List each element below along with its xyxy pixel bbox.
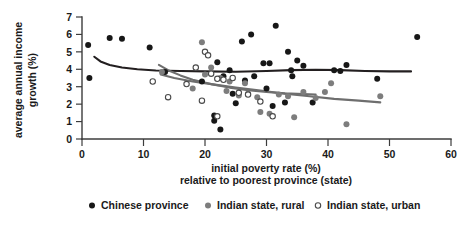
chart-legend: Chinese provinceIndian state, ruralIndia… — [89, 199, 420, 211]
data-point — [270, 103, 276, 109]
data-point — [159, 69, 165, 75]
data-point — [300, 63, 306, 69]
data-point — [273, 23, 279, 29]
scatter-plot-figure: average annual income growth (%) 0123456… — [0, 0, 463, 225]
data-point — [199, 98, 204, 103]
legend-marker-icon — [89, 203, 95, 209]
data-point — [322, 89, 328, 95]
data-point — [184, 81, 189, 86]
data-point — [217, 126, 223, 132]
data-point — [282, 99, 288, 105]
data-point — [215, 114, 220, 119]
data-point — [331, 67, 337, 73]
data-point — [267, 60, 273, 66]
data-point — [291, 114, 297, 120]
trend-line — [94, 57, 411, 72]
y-axis-title: average annual income growth (%) — [12, 22, 38, 138]
y-tick-label: 6 — [66, 28, 72, 40]
legend-label: Chinese province — [101, 199, 189, 211]
y-axis-title-line2: growth (%) — [26, 53, 38, 107]
data-point — [150, 79, 155, 84]
legend-label: Indian state, urban — [327, 199, 420, 211]
data-point — [86, 75, 92, 81]
y-tick-label: 7 — [66, 11, 72, 23]
y-axis-title-line1: average annual income — [12, 22, 24, 138]
data-point — [251, 73, 257, 79]
data-point — [300, 89, 306, 95]
data-point — [230, 75, 235, 80]
data-point — [328, 80, 334, 86]
trend-lines-layer — [94, 57, 411, 103]
data-point — [230, 91, 236, 97]
x-axis-ticks: 0102030405060 — [79, 139, 457, 160]
data-point — [208, 71, 213, 76]
legend-marker-icon — [205, 203, 211, 209]
data-point — [285, 93, 291, 99]
data-point — [374, 76, 380, 82]
data-point — [202, 72, 208, 78]
data-point — [119, 36, 125, 42]
data-point — [258, 99, 263, 104]
y-tick-label: 2 — [66, 98, 72, 110]
data-point — [236, 90, 241, 95]
x-tick-label: 0 — [79, 148, 85, 160]
data-point — [165, 94, 170, 99]
y-tick-label: 1 — [66, 115, 72, 127]
data-point — [313, 95, 319, 101]
legend-marker-icon — [315, 203, 320, 208]
data-point — [190, 85, 196, 91]
data-point — [264, 85, 270, 91]
data-point — [248, 31, 254, 37]
data-point — [85, 42, 91, 48]
data-point — [147, 45, 153, 51]
data-point — [337, 68, 343, 74]
x-axis-title-line1: initial poverty rate (%) — [211, 162, 321, 174]
chart-svg: average annual income growth (%) 0123456… — [0, 0, 463, 225]
x-tick-label: 20 — [199, 148, 211, 160]
data-point — [414, 34, 420, 40]
data-point — [245, 92, 250, 97]
data-point — [288, 67, 294, 73]
data-point — [257, 109, 263, 115]
data-point — [377, 93, 383, 99]
x-tick-label: 30 — [261, 148, 273, 160]
data-point — [214, 59, 220, 65]
y-tick-label: 0 — [66, 133, 72, 145]
legend-item: Indian state, urban — [315, 199, 420, 211]
data-point — [221, 77, 226, 82]
legend-item: Indian state, rural — [205, 199, 305, 211]
data-point — [227, 67, 233, 73]
data-point — [199, 39, 205, 45]
data-point — [285, 49, 291, 55]
x-tick-label: 10 — [138, 148, 150, 160]
data-point — [107, 35, 113, 41]
legend-item: Chinese province — [89, 199, 189, 211]
x-axis-title-line2: relative to poorest province (state) — [180, 174, 352, 186]
legend-label: Indian state, rural — [217, 199, 305, 211]
data-point — [289, 73, 295, 79]
data-point — [294, 58, 300, 64]
data-point — [215, 76, 220, 81]
data-point — [260, 60, 266, 66]
data-point — [242, 80, 248, 86]
data-point — [343, 121, 349, 127]
data-point — [270, 114, 275, 119]
data-point — [233, 100, 239, 106]
y-tick-label: 4 — [66, 63, 72, 75]
data-point — [239, 38, 245, 44]
data-point — [276, 92, 282, 98]
data-points-layer — [85, 23, 420, 133]
x-tick-label: 40 — [322, 148, 334, 160]
y-axis-ticks: 01234567 — [66, 11, 82, 145]
data-point — [193, 65, 198, 70]
data-point — [205, 53, 210, 58]
y-tick-label: 5 — [66, 46, 72, 58]
data-point — [343, 62, 349, 68]
y-tick-label: 3 — [66, 81, 72, 93]
data-point — [224, 88, 230, 94]
x-tick-label: 50 — [384, 148, 396, 160]
x-axis-title: initial poverty rate (%) relative to poo… — [180, 162, 352, 186]
data-point — [199, 78, 205, 84]
data-point — [208, 65, 214, 71]
x-tick-label: 60 — [445, 148, 457, 160]
